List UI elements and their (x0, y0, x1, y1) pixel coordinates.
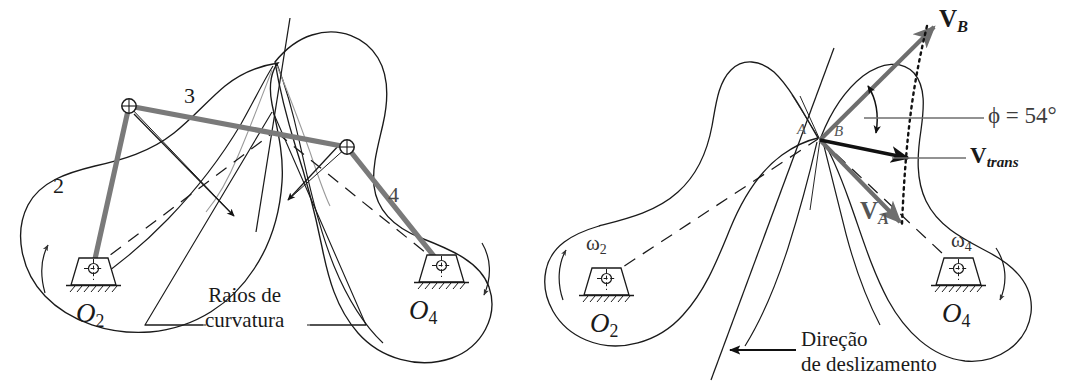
pivot-o2-subscript: 2 (96, 311, 105, 331)
pivot-o2-letter: O (76, 298, 96, 328)
right-cam-body-outline (275, 32, 492, 363)
label-link-2: 2 (53, 175, 64, 197)
label-link-4: 4 (388, 184, 399, 206)
rotation-arc-right-cam (482, 243, 489, 295)
omega2-rotation-arc (559, 250, 566, 300)
vector-vb-subscript: B (957, 17, 968, 36)
figure-canvas: 2 3 4 O2 O4 Raios de curvatura (0, 0, 1068, 389)
label-link-3: 3 (184, 85, 195, 107)
label-omega4: ω4 (951, 230, 972, 254)
callout-direction-of-sliding: Direção de deslizamento (801, 327, 937, 376)
vector-va-letter: V (860, 197, 878, 224)
vector-vtrans-subscript: trans (987, 153, 1019, 170)
omega2-subscript: 2 (600, 242, 607, 257)
label-pivot-o2: O2 (76, 300, 104, 331)
label-vector-vb: VB (939, 6, 968, 35)
label-vector-vtrans: Vtrans (970, 144, 1019, 169)
label-angle-phi: ϕ = 54° (988, 104, 1057, 127)
omega4-subscript: 4 (965, 239, 972, 254)
construction-line-right-pin (288, 147, 347, 200)
radius-arrow-right (288, 144, 340, 200)
callout-radii-line-1: Raios de (205, 283, 284, 308)
tangent-line-through-contact (256, 18, 290, 232)
label-omega2: ω2 (586, 233, 607, 257)
ground-pivot-o4 (931, 258, 986, 292)
left-cam-body-outline (545, 62, 818, 346)
label-point-a: A (797, 122, 806, 137)
centerline-o2-contact (606, 139, 818, 278)
label-pivot-o4: O4 (409, 297, 437, 328)
label-pivot-o4: O4 (942, 300, 970, 331)
left-cam-flank-curve (745, 142, 817, 346)
callout-sliding-line-2: de deslizamento (801, 352, 937, 377)
vector-vtrans-letter: V (970, 143, 987, 168)
pivot-o4-subscript: 4 (429, 308, 438, 328)
pivot-o4-subscript: 4 (962, 311, 971, 331)
omega4-symbol: ω (951, 228, 965, 252)
label-point-b: B (834, 124, 843, 139)
pin-joint-link2-link3 (122, 99, 136, 113)
vector-vb-letter: V (939, 5, 957, 32)
pivot-o2-letter: O (590, 308, 610, 338)
pivot-o4-letter: O (942, 298, 962, 328)
callout-radii-of-curvature: Raios de curvatura (205, 283, 284, 332)
ground-pivot-o2 (579, 268, 634, 302)
pivot-o2-subscript: 2 (610, 321, 619, 341)
ground-pivot-o4 (414, 255, 469, 289)
pivot-o4-letter: O (409, 295, 429, 325)
label-pivot-o2: O2 (590, 310, 618, 341)
omega2-symbol: ω (586, 231, 600, 255)
right-figure-panel: A B VB VA Vtrans ϕ = 54° ω2 ω4 O2 O4 Dir… (534, 0, 1068, 389)
callout-sliding-line-1: Direção (801, 327, 937, 352)
callout-radii-line-2: curvatura (205, 308, 284, 333)
left-figure-panel: 2 3 4 O2 O4 Raios de curvatura (0, 0, 534, 389)
rotation-arc-left-cam (42, 245, 48, 293)
vector-va-subscript: A (878, 209, 889, 228)
ground-pivot-o2 (66, 258, 121, 292)
centerline-o4-to-contact (276, 132, 441, 265)
pin-joint-link3-link4 (340, 140, 354, 154)
omega4-rotation-arc (996, 248, 1005, 300)
label-vector-va: VA (860, 198, 889, 227)
link-2 (93, 106, 129, 268)
